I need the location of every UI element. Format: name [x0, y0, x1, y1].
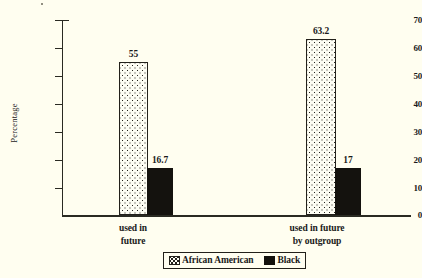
x-axis-line	[62, 215, 411, 217]
bar-value-african-american-used-in-future-by-outgroup: 63.2	[306, 27, 336, 37]
bar-value-black-used-in-future: 16.7	[147, 156, 173, 166]
y-axis-label-60: 60	[396, 44, 422, 53]
y-axis-tick-50	[55, 76, 62, 77]
bar-chart: Percentage 70 60 50 40 30 20 10 0 55 16.…	[0, 0, 422, 278]
y-axis-tick-70	[55, 20, 62, 21]
y-axis-tick-30	[55, 132, 62, 133]
legend-label-black: Black	[277, 256, 300, 266]
y-axis-label-10: 10	[396, 184, 422, 193]
bar-african-american-used-in-future-by-outgroup	[306, 39, 336, 215]
chart-legend: African American Black	[163, 252, 306, 269]
y-axis-label-0: 0	[396, 211, 422, 220]
y-axis-tick-40	[55, 104, 62, 105]
bar-value-african-american-used-in-future: 55	[119, 50, 148, 60]
x-axis-category-used-in-future-by-outgroup: used in future by outgroup	[262, 222, 372, 247]
y-axis-label-30: 30	[396, 128, 422, 137]
bar-african-american-used-in-future	[119, 62, 148, 215]
bar-black-used-in-future	[147, 168, 173, 215]
y-axis-title: Percentage	[9, 88, 19, 158]
y-axis-label-40: 40	[396, 100, 422, 109]
y-axis-label-20: 20	[396, 156, 422, 165]
bar-value-black-used-in-future-by-outgroup: 17	[335, 156, 361, 166]
y-axis-tick-60	[55, 48, 62, 49]
legend-item-black: Black	[264, 256, 300, 266]
legend-swatch-solid-icon	[264, 256, 275, 265]
x-axis-category-used-in-future: used in future	[93, 222, 173, 247]
y-axis-label-70: 70	[396, 16, 422, 25]
bar-black-used-in-future-by-outgroup	[335, 168, 361, 215]
y-axis-tick-20	[55, 160, 62, 161]
y-axis-label-50: 50	[396, 72, 422, 81]
y-axis-line	[62, 20, 63, 216]
scan-artifact-speck	[41, 3, 43, 5]
legend-item-african-american: African American	[169, 256, 253, 266]
y-axis-tick-top	[62, 20, 69, 21]
legend-swatch-dotted-icon	[169, 256, 180, 265]
legend-label-african-american: African American	[182, 256, 253, 266]
y-axis-tick-10	[55, 188, 62, 189]
